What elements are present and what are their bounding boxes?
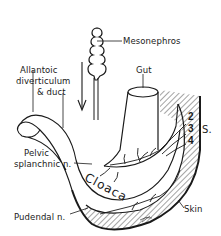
mesonephros-shape	[88, 28, 106, 80]
label-skin: Skin	[184, 204, 202, 214]
label-mesonephros: Mesonephros	[123, 36, 181, 46]
label-sacral-4: 4	[188, 136, 194, 146]
label-pelvic-1: Pelvic	[24, 148, 49, 158]
label-allantoic-1: Allantoic	[20, 65, 58, 75]
label-pudendal: Pudendal n.	[14, 212, 65, 222]
label-sacral-2: 2	[188, 112, 194, 122]
label-allantoic-3: & duct	[37, 87, 66, 97]
label-allantoic-2: diverticulum	[16, 76, 71, 86]
label-gut: Gut	[136, 65, 152, 75]
cloaca-diagram: Mesonephros Allantoic diverticulum & duc…	[0, 0, 221, 236]
cloaca-wall	[76, 130, 180, 200]
label-sacral-3: 3	[188, 124, 194, 134]
label-pelvic-2: splanchnic n.	[14, 159, 71, 169]
label-sacral-s: S.	[202, 125, 212, 135]
